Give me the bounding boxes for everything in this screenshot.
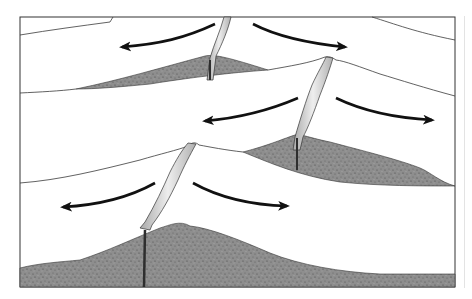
magma-feeder-lower [144, 230, 145, 287]
seafloor-spreading-diagram [0, 0, 472, 299]
diagram-canvas [0, 0, 472, 299]
page-edge-line [464, 16, 465, 288]
